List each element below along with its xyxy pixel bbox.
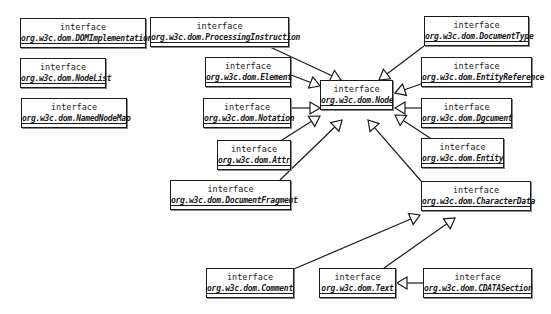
class-box-entity-reference[interactable]: interfaceorg.w3c.dom.EntityReference bbox=[421, 57, 532, 87]
class-box-notation[interactable]: interfaceorg.w3c.dom.Notation bbox=[203, 98, 291, 128]
edge-entity-reference-to-node bbox=[404, 84, 421, 90]
edge-element-to-node bbox=[291, 75, 311, 82]
stereotype-label: interface bbox=[21, 62, 105, 73]
compartment-divider bbox=[21, 43, 145, 44]
compartment-divider bbox=[425, 41, 528, 42]
compartment-divider bbox=[151, 42, 288, 43]
compartment-divider bbox=[321, 105, 392, 106]
inheritance-arrow-icon bbox=[397, 277, 407, 289]
class-box-comment[interactable]: interfaceorg.w3c.dom.Comment bbox=[206, 268, 294, 298]
stereotype-label: interface bbox=[425, 20, 528, 31]
compartment-divider bbox=[422, 206, 530, 207]
stereotype-label: interface bbox=[21, 22, 145, 33]
class-box-cdata-section[interactable]: interfaceorg.w3c.dom.CDATASection bbox=[423, 268, 532, 298]
stereotype-label: interface bbox=[321, 84, 392, 95]
stereotype-label: interface bbox=[422, 142, 503, 153]
edge-character-data-to-node bbox=[375, 128, 421, 181]
stereotype-label: interface bbox=[422, 185, 530, 196]
class-box-text[interactable]: interfaceorg.w3c.dom.Text bbox=[319, 268, 396, 298]
stereotype-label: interface bbox=[218, 144, 290, 155]
stereotype-label: interface bbox=[424, 272, 531, 283]
class-box-element[interactable]: interfaceorg.w3c.dom.Element bbox=[205, 57, 291, 87]
inheritance-arrow-icon bbox=[395, 84, 406, 95]
compartment-divider bbox=[171, 205, 290, 206]
inheritance-arrow-icon bbox=[309, 77, 320, 88]
inheritance-arrow-icon bbox=[395, 115, 407, 126]
stereotype-label: interface bbox=[204, 102, 290, 113]
inheritance-arrow-icon bbox=[408, 213, 420, 224]
compartment-divider bbox=[422, 163, 503, 164]
compartment-divider bbox=[320, 293, 395, 294]
class-box-document-type[interactable]: interfaceorg.w3c.dom.DocumentType bbox=[424, 16, 529, 46]
stereotype-label: interface bbox=[320, 272, 395, 283]
edge-text-to-character-data bbox=[384, 224, 447, 268]
class-box-node-list[interactable]: interfaceorg.w3c.dom.NodeList bbox=[20, 58, 106, 88]
class-box-attr[interactable]: interfaceorg.w3c.dom.Attr bbox=[217, 140, 291, 170]
compartment-divider bbox=[422, 82, 531, 83]
inheritance-arrow-icon bbox=[368, 120, 379, 131]
class-box-document[interactable]: interfaceorg.w3c.dom.Dgcument bbox=[421, 98, 512, 128]
inheritance-arrow-icon bbox=[379, 69, 391, 80]
stereotype-label: interface bbox=[22, 102, 126, 113]
class-box-dom-implementation[interactable]: interfaceorg.w3c.dom.DOMImplementation bbox=[20, 18, 146, 48]
inheritance-arrow-icon bbox=[310, 102, 320, 114]
stereotype-label: interface bbox=[151, 21, 288, 32]
compartment-divider bbox=[424, 293, 531, 294]
stereotype-label: interface bbox=[422, 102, 511, 113]
stereotype-label: interface bbox=[422, 61, 531, 72]
stereotype-label: interface bbox=[171, 184, 290, 195]
stereotype-label: interface bbox=[207, 272, 293, 283]
compartment-divider bbox=[422, 123, 511, 124]
class-box-processing-instruction[interactable]: interfaceorg.w3c.dom.ProcessingInstructi… bbox=[150, 17, 289, 47]
compartment-divider bbox=[207, 293, 293, 294]
class-box-entity[interactable]: interfaceorg.w3c.dom.Entity bbox=[421, 138, 504, 168]
class-box-node[interactable]: interfaceorg.w3c.dom.Node bbox=[320, 80, 393, 110]
compartment-divider bbox=[206, 82, 290, 83]
compartment-divider bbox=[22, 123, 126, 124]
compartment-divider bbox=[21, 83, 105, 84]
inheritance-arrow-icon bbox=[308, 116, 320, 126]
class-box-named-node-map[interactable]: interfaceorg.w3c.dom.NamedNodeMap bbox=[21, 98, 127, 128]
class-box-document-fragment[interactable]: interfaceorg.w3c.dom.DocumentFragment bbox=[170, 180, 291, 210]
compartment-divider bbox=[204, 123, 290, 124]
edge-document-type-to-node bbox=[387, 46, 424, 74]
stereotype-label: interface bbox=[206, 61, 290, 72]
inheritance-arrow-icon bbox=[395, 102, 405, 114]
inheritance-arrow-icon bbox=[443, 218, 455, 229]
class-box-character-data[interactable]: interfaceorg.w3c.dom.CharacterData bbox=[421, 181, 531, 211]
compartment-divider bbox=[218, 165, 290, 166]
